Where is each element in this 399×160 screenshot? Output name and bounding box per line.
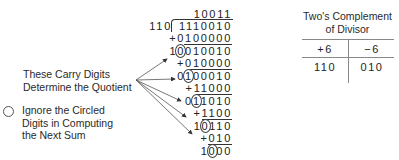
arrow-3 bbox=[136, 80, 181, 101]
arrow-4 bbox=[136, 80, 186, 117]
arrow-2 bbox=[136, 79, 175, 80]
arrow-5 bbox=[136, 80, 192, 134]
arrow-1 bbox=[136, 59, 167, 80]
carry-arrows bbox=[0, 0, 399, 160]
